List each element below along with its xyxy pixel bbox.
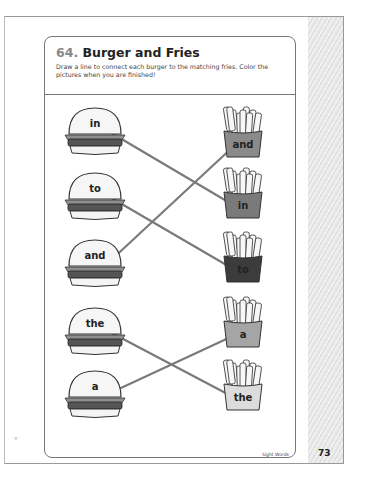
connection-line (108, 145, 235, 263)
burger-the[interactable]: the (65, 308, 125, 355)
page-number: 73 (318, 448, 331, 458)
fries-word: the (234, 392, 253, 403)
burger-a[interactable]: a (65, 371, 125, 418)
connection-line (108, 131, 235, 206)
fries-word: a (240, 329, 247, 340)
burger-word: to (89, 183, 101, 194)
matching-artwork: intoandtheaandintoathe (0, 0, 365, 498)
burger-word: in (90, 118, 101, 129)
section-label: Sight Words (262, 452, 289, 457)
burger-and[interactable]: and (65, 240, 125, 287)
copyright-credit: © (14, 437, 18, 441)
burger-in[interactable]: in (65, 108, 125, 155)
fries-and[interactable]: and (223, 107, 262, 157)
connection-line (108, 335, 235, 394)
burger-word: a (92, 381, 99, 392)
fries-in[interactable]: in (223, 168, 262, 218)
fries-the[interactable]: the (223, 360, 262, 410)
fries-word: to (237, 264, 249, 275)
fries-word: in (238, 200, 249, 211)
fries-word: and (232, 139, 253, 150)
burger-to[interactable]: to (65, 173, 125, 220)
burger-word: the (86, 318, 105, 329)
burger-word: and (84, 250, 105, 261)
connection-line (108, 196, 235, 270)
fries-a[interactable]: a (223, 297, 262, 347)
fries-to[interactable]: to (223, 232, 262, 282)
